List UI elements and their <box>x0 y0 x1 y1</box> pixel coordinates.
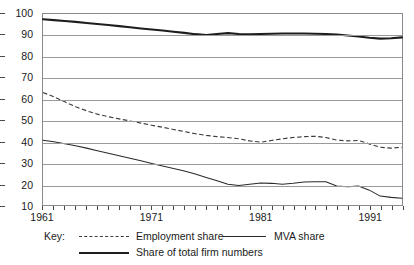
x-axis-tick <box>337 206 338 210</box>
x-axis-tick <box>283 206 284 210</box>
chart-root: 100908070605040302010 1961197119811991 K… <box>0 0 414 265</box>
x-axis-tick <box>162 206 163 210</box>
legend-swatch-mva-share <box>222 236 266 237</box>
x-axis-tick <box>173 206 174 210</box>
x-axis-tick <box>97 206 98 210</box>
gridline <box>43 35 402 36</box>
legend-label-employment-share: Employment share <box>136 230 224 242</box>
y-axis-tick-label: 70 <box>21 72 33 82</box>
x-axis-tick <box>261 206 262 210</box>
x-axis-tick <box>217 206 218 210</box>
x-axis-tick-label: 1991 <box>358 211 381 223</box>
y-axis-tick-label: 60 <box>21 94 33 104</box>
legend-label-mva-share: MVA share <box>274 230 325 242</box>
legend-key-label: Key: <box>44 230 65 242</box>
y-axis-tick <box>0 56 5 57</box>
chart-title-strip <box>0 0 414 9</box>
x-axis-tick <box>381 206 382 210</box>
legend: Key: Employment share MVA share Share of… <box>0 228 414 265</box>
x-axis-tick <box>294 206 295 210</box>
x-axis-tick <box>403 206 404 210</box>
x-axis-tick <box>75 206 76 210</box>
x-axis-tick <box>151 206 152 210</box>
x-axis-tick <box>359 206 360 210</box>
x-axis-tick <box>315 206 316 210</box>
y-axis-tick-label: 40 <box>21 137 33 147</box>
y-axis-tick-label: 30 <box>21 158 33 168</box>
x-axis-tick <box>228 206 229 210</box>
x-axis-tick <box>108 206 109 210</box>
y-axis-tick-label: 10 <box>21 201 33 211</box>
y-axis-tick <box>0 142 5 143</box>
y-axis-tick <box>0 13 5 14</box>
x-axis-tick <box>64 206 65 210</box>
series-lines <box>43 14 402 205</box>
gridline <box>43 143 402 144</box>
gridline <box>43 78 402 79</box>
x-axis-tick <box>86 206 87 210</box>
x-axis-tick <box>326 206 327 210</box>
x-axis-tick <box>272 206 273 210</box>
y-axis-tick <box>0 77 5 78</box>
line-mva-share <box>43 140 402 198</box>
y-axis-tick <box>0 206 5 207</box>
x-axis-tick <box>195 206 196 210</box>
x-axis-tick <box>42 206 43 210</box>
gridline <box>43 164 402 165</box>
gridline <box>43 100 402 101</box>
x-axis-tick-label: 1961 <box>30 211 53 223</box>
x-axis-tick-label: 1971 <box>140 211 163 223</box>
y-axis-tick <box>0 185 5 186</box>
x-axis-tick <box>206 206 207 210</box>
gridline <box>43 57 402 58</box>
legend-label-share-of-total-firm-numbers: Share of total firm numbers <box>136 246 263 258</box>
x-axis-tick-label: 1981 <box>249 211 272 223</box>
y-axis-tick-label: 20 <box>21 180 33 190</box>
x-axis-tick <box>119 206 120 210</box>
y-axis-tick <box>0 163 5 164</box>
y-axis-tick <box>0 120 5 121</box>
x-axis-tick <box>348 206 349 210</box>
x-axis-tick <box>392 206 393 210</box>
x-axis-tick <box>239 206 240 210</box>
legend-swatch-employment-share <box>79 236 129 237</box>
legend-swatch-share-of-total-firm-numbers <box>79 252 129 254</box>
x-axis-tick <box>184 206 185 210</box>
y-axis-tick-label: 90 <box>21 29 33 39</box>
x-axis-tick <box>370 206 371 210</box>
plot-area <box>42 13 403 206</box>
y-axis-tick-label: 100 <box>15 8 33 18</box>
y-axis: 100908070605040302010 <box>0 13 42 206</box>
x-axis-tick <box>250 206 251 210</box>
y-axis-tick <box>0 34 5 35</box>
y-axis-tick <box>0 99 5 100</box>
x-axis-tick <box>140 206 141 210</box>
x-axis-tick <box>130 206 131 210</box>
x-axis-tick <box>305 206 306 210</box>
x-axis-tick <box>53 206 54 210</box>
gridline <box>43 186 402 187</box>
y-axis-tick-label: 50 <box>21 115 33 125</box>
gridline <box>43 121 402 122</box>
y-axis-tick-label: 80 <box>21 51 33 61</box>
